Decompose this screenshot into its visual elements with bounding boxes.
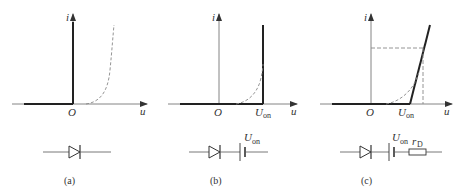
y-axis-label-c: i <box>364 11 367 23</box>
y-axis-label-a: i <box>66 11 69 23</box>
battery-label-c: U on <box>392 131 408 146</box>
diode-battery-resistor-circuit-c <box>340 143 442 161</box>
x-axis-label-b: u <box>291 105 297 117</box>
battery-label-b: U on <box>244 131 260 146</box>
actual-curve-b <box>236 64 263 104</box>
svg-text:on: on <box>252 137 260 146</box>
svg-text:on: on <box>263 111 271 120</box>
threshold-label-c: U on <box>398 106 414 120</box>
svg-text:on: on <box>406 111 414 120</box>
panel-a: i u O (a) <box>12 11 147 187</box>
origin-label-a: O <box>68 106 76 118</box>
origin-label-c: O <box>366 106 374 118</box>
resistor-c <box>409 149 426 155</box>
diode-symbol-a <box>43 145 111 159</box>
svg-text:D: D <box>417 140 423 149</box>
origin-label-b: O <box>214 106 222 118</box>
axes-b <box>168 14 297 104</box>
panel-c: i u O U on U on r D (c) <box>320 11 452 187</box>
caption-c: (c) <box>361 175 372 187</box>
diode-models-figure: i u O (a) i u O U on <box>0 0 459 196</box>
axes-a <box>12 14 147 104</box>
actual-curve-a <box>86 25 114 104</box>
caption-a: (a) <box>64 175 75 187</box>
y-axis-label-b: i <box>212 11 215 23</box>
axes-c <box>320 14 452 104</box>
model-sloped-line-c <box>410 25 430 104</box>
x-axis-label-a: u <box>140 105 146 117</box>
caption-b: (b) <box>210 175 222 187</box>
x-axis-label-c: u <box>444 105 450 117</box>
panel-b: i u O U on U on (b) <box>168 11 297 187</box>
resistor-label-c: r D <box>412 135 423 149</box>
svg-text:on: on <box>400 137 408 146</box>
threshold-label-b: U on <box>255 106 271 120</box>
